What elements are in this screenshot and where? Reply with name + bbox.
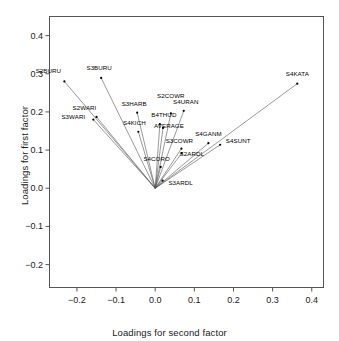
- x-tick-label: −0.2: [68, 295, 86, 305]
- data-point: [92, 118, 94, 120]
- point-label: S4KATA: [286, 70, 309, 77]
- x-tick-label: 0.3: [266, 295, 279, 305]
- x-tick-label: 0.2: [227, 295, 240, 305]
- data-point: [183, 110, 185, 112]
- data-point: [100, 77, 102, 79]
- point-label: S3COWR: [166, 137, 193, 144]
- data-point: [162, 180, 164, 182]
- point-label: S2ARDL: [180, 150, 204, 157]
- loading-vector: [64, 81, 155, 188]
- data-point: [296, 83, 298, 85]
- loadings-scatter-figure: −0.2−0.10.00.10.20.30.4 −0.2−0.10.00.10.…: [0, 0, 339, 341]
- point-label: S2BURU: [36, 67, 61, 74]
- x-tick-label: 0.1: [188, 295, 201, 305]
- data-point: [95, 116, 97, 118]
- data-point: [136, 112, 138, 114]
- plot-canvas: [0, 0, 339, 341]
- x-axis-ticks: [77, 288, 312, 292]
- point-label: S3WARI: [61, 113, 85, 120]
- data-point: [137, 131, 139, 133]
- x-tick-label: 0.4: [305, 295, 318, 305]
- point-label: S3HARB: [122, 100, 147, 107]
- y-axis-title: Loadings for first factor: [19, 66, 30, 246]
- point-label: AVERAGE: [154, 122, 184, 129]
- point-label: S4KICH: [123, 119, 146, 126]
- x-tick-label: 0.0: [149, 295, 162, 305]
- loading-vector: [101, 78, 155, 188]
- data-point: [207, 142, 209, 144]
- data-point: [219, 144, 221, 146]
- data-point: [160, 166, 162, 168]
- point-label: S4SUNT: [226, 137, 251, 144]
- x-tick-label: −0.1: [107, 295, 125, 305]
- y-tick-label: −0.2: [14, 260, 43, 270]
- point-label: S4CORO: [143, 155, 169, 162]
- x-axis-title: Loadings for second factor: [0, 327, 339, 338]
- data-point: [63, 80, 65, 82]
- point-label: S4GANM: [195, 130, 221, 137]
- point-label: S3ARDL: [168, 179, 192, 186]
- point-label: S4URAN: [173, 98, 198, 105]
- point-label: B4THUD: [151, 111, 176, 118]
- y-tick-label: 0.4: [14, 31, 43, 41]
- point-label: S2WARI: [73, 104, 97, 111]
- point-label: S3BURU: [86, 64, 111, 71]
